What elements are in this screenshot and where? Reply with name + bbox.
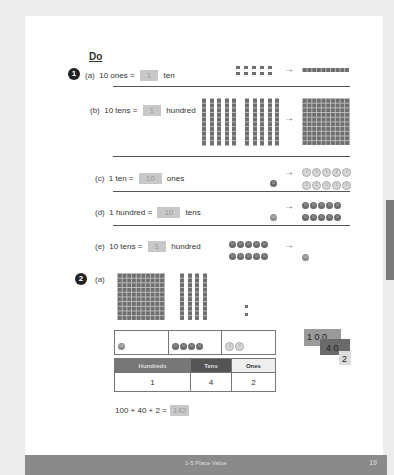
question-rhs: ten bbox=[164, 71, 175, 80]
equation: 100 + 40 + 2 = 142 bbox=[115, 405, 190, 416]
answer-box[interactable]: 142 bbox=[170, 405, 189, 416]
value-tens: 4 bbox=[191, 373, 232, 392]
ten-one-discs: 11111 11111 bbox=[302, 164, 352, 190]
page-number: 19 bbox=[369, 459, 377, 466]
problem-2-badge: 2 bbox=[75, 273, 87, 285]
ones-cell: 11 bbox=[222, 331, 275, 354]
ten-disc: 10 bbox=[270, 170, 278, 188]
question-rhs: hundred bbox=[166, 106, 195, 115]
answer-box[interactable]: 1 bbox=[140, 70, 158, 81]
header-hundreds: Hundreds bbox=[115, 359, 191, 373]
question-rhs: ones bbox=[167, 174, 184, 183]
tens-rods bbox=[180, 273, 207, 320]
part-label: (e) bbox=[95, 242, 105, 251]
hundred-flat bbox=[302, 98, 350, 145]
divider bbox=[113, 191, 350, 192]
value-ones: 2 bbox=[231, 373, 275, 392]
equation-lhs: 100 + 40 + 2 = bbox=[115, 406, 167, 415]
answer-box[interactable]: 10 bbox=[157, 207, 180, 218]
value-hundreds: 1 bbox=[115, 373, 191, 392]
problem-1e: (e) 10 tens = 1 hundred bbox=[95, 241, 201, 252]
problem-1a: (a) 10 ones = 1 ten bbox=[85, 70, 175, 81]
ten-ten-discs: 1010101010 1010101010 bbox=[302, 197, 352, 221]
part-label: (d) bbox=[95, 208, 105, 217]
problem-1b: (b) 10 tens = 1 hundred bbox=[90, 105, 196, 116]
part-label: (b) bbox=[90, 106, 100, 115]
hundred-flat bbox=[117, 273, 165, 320]
hundreds-cell: 100 bbox=[115, 331, 169, 354]
arrow-icon: → bbox=[284, 239, 294, 250]
page-footer: 1-5 Place Value 19 bbox=[25, 455, 387, 475]
divider bbox=[113, 156, 350, 157]
problem-1d: (d) 1 hundred = 10 tens bbox=[95, 207, 201, 218]
arrow-icon: → bbox=[284, 200, 294, 211]
ten-rods-group bbox=[202, 98, 280, 146]
problem-1-badge: 1 bbox=[68, 68, 80, 80]
ten-ones-cubes bbox=[236, 66, 278, 77]
hundred-disc: 100 bbox=[270, 204, 278, 222]
place-value-discs: 100 10101010 11 bbox=[114, 330, 276, 355]
arrow-icon: → bbox=[284, 166, 294, 177]
arrow-icon: → bbox=[284, 63, 294, 74]
ten-ten-discs: 1010101010 1010101010 bbox=[229, 236, 279, 260]
textbook-page bbox=[25, 16, 383, 475]
footer-title: 1-5 Place Value bbox=[25, 460, 387, 466]
question-rhs: tens bbox=[186, 208, 201, 217]
divider bbox=[113, 225, 350, 226]
section-heading: Do bbox=[89, 51, 102, 62]
part-label: (a) bbox=[95, 275, 105, 284]
problem-1c: (c) 1 ten = 10 ones bbox=[95, 173, 184, 184]
question-lhs: 10 tens = bbox=[109, 242, 142, 251]
answer-box[interactable]: 10 bbox=[139, 173, 162, 184]
hundred-disc: 100 bbox=[302, 244, 310, 262]
question-lhs: 10 ones = bbox=[99, 71, 134, 80]
arrow-icon: → bbox=[284, 112, 294, 123]
ten-rod bbox=[302, 68, 349, 72]
place-value-table: Hundreds Tens Ones 1 4 2 bbox=[114, 358, 276, 392]
ones-cubes bbox=[245, 305, 248, 316]
divider bbox=[113, 86, 350, 87]
part-label: (a) bbox=[85, 71, 95, 80]
part-label: (c) bbox=[95, 174, 104, 183]
header-ones: Ones bbox=[231, 359, 275, 373]
question-rhs: hundred bbox=[171, 242, 200, 251]
chapter-tab bbox=[386, 200, 394, 280]
answer-box[interactable]: 1 bbox=[148, 241, 166, 252]
question-lhs: 1 hundred = bbox=[109, 208, 152, 217]
number-card-ones: 2 bbox=[339, 351, 351, 365]
question-lhs: 1 ten = bbox=[109, 174, 134, 183]
header-tens: Tens bbox=[191, 359, 232, 373]
answer-box[interactable]: 1 bbox=[143, 105, 161, 116]
tens-cell: 10101010 bbox=[169, 331, 223, 354]
question-lhs: 10 tens = bbox=[104, 106, 137, 115]
